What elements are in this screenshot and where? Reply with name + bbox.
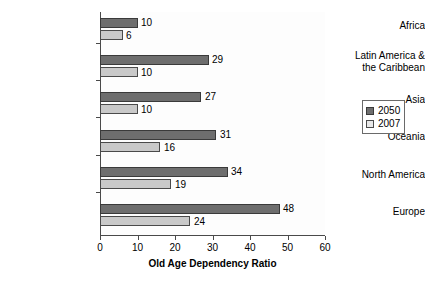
x-axis-tick-label-30: 30 [198, 242, 228, 253]
x-axis-tick [175, 236, 176, 240]
x-axis-tick [250, 236, 251, 240]
bar-value-2050-north-america: 34 [231, 167, 242, 177]
bar-value-2007-europe: 24 [194, 217, 205, 227]
x-axis-tick-label-20: 20 [160, 242, 190, 253]
bar-value-2050-africa: 10 [141, 18, 152, 28]
x-axis-tick-label-40: 40 [235, 242, 265, 253]
bar-chart: Africa Latin America & the Caribbean Asi… [0, 0, 425, 283]
y-axis-label-africa: Africa [331, 20, 425, 32]
y-axis-label-north-america: North America [331, 169, 425, 181]
y-axis-tick [96, 155, 100, 156]
bar-value-2007-oceania: 16 [164, 143, 175, 153]
bar-2007-africa[interactable] [100, 30, 123, 40]
bar-value-2050-oceania: 31 [220, 130, 231, 140]
legend-item-2007[interactable]: 2007 [366, 117, 400, 130]
bar-2007-north-america[interactable] [100, 179, 171, 189]
legend-label-2007: 2007 [378, 118, 400, 129]
chart-legend: 2050 2007 [362, 100, 405, 134]
x-axis-tick [213, 236, 214, 240]
x-axis-tick-label-0: 0 [85, 242, 115, 253]
legend-swatch-2050-icon [366, 107, 374, 115]
bar-value-2007-latin-america-and-the-caribbean: 10 [141, 68, 152, 78]
bar-2007-latin-america-and-the-caribbean[interactable] [100, 67, 138, 77]
y-axis-tick [96, 43, 100, 44]
bar-2050-latin-america-and-the-caribbean[interactable] [100, 55, 209, 65]
x-axis-tick [138, 236, 139, 240]
legend-item-2050[interactable]: 2050 [366, 104, 400, 117]
bar-2007-asia[interactable] [100, 104, 138, 114]
y-axis-label-latin-america-and-the-caribbean: Latin America & the Caribbean [331, 50, 425, 74]
x-axis-title: Old Age Dependency Ratio [100, 258, 325, 269]
bar-2050-asia[interactable] [100, 92, 201, 102]
x-axis-tick-label-60: 60 [310, 242, 340, 253]
bar-value-2007-asia: 10 [141, 105, 152, 115]
legend-label-2050: 2050 [378, 105, 400, 116]
y-axis-tick [96, 192, 100, 193]
bar-2007-europe[interactable] [100, 216, 190, 226]
bar-2050-europe[interactable] [100, 204, 280, 214]
bar-value-2050-latin-america-and-the-caribbean: 29 [212, 55, 223, 65]
y-axis-label-europe: Europe [331, 206, 425, 218]
bar-value-2050-asia: 27 [205, 92, 216, 102]
x-axis-tick-label-10: 10 [123, 242, 153, 253]
bar-value-2050-europe: 48 [283, 204, 294, 214]
bar-2007-oceania[interactable] [100, 142, 160, 152]
y-axis-tick [96, 80, 100, 81]
bar-2050-north-america[interactable] [100, 167, 228, 177]
bar-value-2007-africa: 6 [126, 31, 132, 41]
bar-2050-africa[interactable] [100, 18, 138, 28]
y-axis-tick [96, 117, 100, 118]
bar-2050-oceania[interactable] [100, 130, 216, 140]
x-axis-tick [288, 236, 289, 240]
legend-swatch-2007-icon [366, 120, 374, 128]
x-axis-tick-label-50: 50 [273, 242, 303, 253]
x-axis-tick [100, 236, 101, 240]
x-axis-tick [325, 236, 326, 240]
bar-value-2007-north-america: 19 [175, 180, 186, 190]
